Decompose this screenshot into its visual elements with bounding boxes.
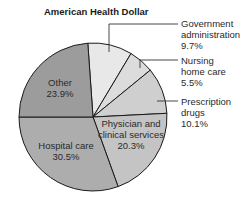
label-prescription: Prescription drugs 10.1% bbox=[181, 96, 231, 129]
label-physician: Physician and bbox=[101, 118, 160, 129]
label-government-line2: administration bbox=[181, 29, 240, 40]
label-nursing: Nursing home care 5.5% bbox=[181, 55, 226, 88]
label-government-line1: Government bbox=[181, 18, 240, 29]
label-other-pct: 23.9% bbox=[47, 88, 74, 99]
label-other: Other bbox=[48, 77, 72, 88]
label-physician-pct: 20.3% bbox=[118, 140, 145, 151]
label-prescription-line2: drugs bbox=[181, 107, 231, 118]
label-nursing-line2: home care bbox=[181, 66, 226, 77]
label-hospital-pct: 30.5% bbox=[53, 151, 80, 162]
label-prescription-pct: 10.1% bbox=[181, 118, 231, 129]
label-government-pct: 9.7% bbox=[181, 40, 240, 51]
label-hospital: Hospital care bbox=[38, 140, 93, 151]
label-physician-line2: clinical services bbox=[98, 129, 164, 140]
label-government: Government administration 9.7% bbox=[181, 18, 240, 51]
label-prescription-line1: Prescription bbox=[181, 96, 231, 107]
label-nursing-line1: Nursing bbox=[181, 55, 226, 66]
label-nursing-pct: 5.5% bbox=[181, 77, 226, 88]
